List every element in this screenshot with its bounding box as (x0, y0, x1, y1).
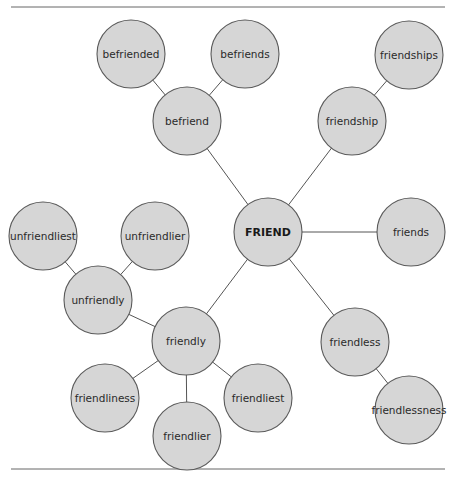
node-unfriendlier: unfriendlier (121, 202, 189, 270)
node-friendlessness: friendlessness (371, 376, 446, 444)
node-friendlier: friendlier (153, 402, 221, 470)
node-label: friendliest (232, 392, 285, 404)
node-label: befriends (220, 48, 269, 60)
node-label: befriend (165, 115, 209, 127)
node-label: unfriendliest (10, 230, 76, 242)
word-family-diagram: FRIENDbefriendbefriendedbefriendsfriends… (0, 0, 455, 489)
node-label: friendliness (75, 392, 136, 404)
node-label: friendlier (163, 430, 211, 442)
node-label: FRIEND (245, 226, 291, 239)
node-label: unfriendlier (125, 230, 186, 242)
node-label: befriended (103, 48, 160, 60)
node-label: friendship (326, 115, 379, 127)
node-befriended: befriended (97, 20, 165, 88)
node-friendly: friendly (152, 307, 220, 375)
node-label: friendships (380, 49, 438, 61)
node-friendship: friendship (318, 87, 386, 155)
node-label: unfriendly (71, 294, 124, 306)
node-friendliness: friendliness (71, 364, 139, 432)
node-befriend: befriend (153, 87, 221, 155)
node-friendliest: friendliest (224, 364, 292, 432)
node-friend: FRIEND (234, 198, 302, 266)
node-unfriendly: unfriendly (64, 266, 132, 334)
node-label: friendless (329, 336, 380, 348)
node-friendless: friendless (321, 308, 389, 376)
node-friends: friends (377, 198, 445, 266)
node-friendships: friendships (375, 21, 443, 89)
node-unfriendliest: unfriendliest (9, 202, 77, 270)
node-befriends: befriends (211, 20, 279, 88)
node-label: friends (393, 226, 429, 238)
node-label: friendlessness (371, 404, 446, 416)
node-label: friendly (166, 335, 206, 347)
